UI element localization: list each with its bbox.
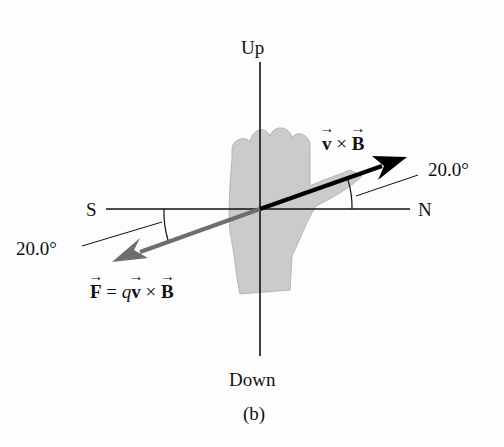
figure-caption: (b) xyxy=(243,404,265,423)
equals-symbol: = xyxy=(102,281,122,302)
force-label: F = qv × B xyxy=(90,282,174,301)
angle-label-left: 20.0° xyxy=(16,239,57,258)
angle-leader-right xyxy=(356,175,418,196)
q-symbol: q xyxy=(122,281,132,302)
angle-leader-left xyxy=(82,222,162,246)
v-symbol: v xyxy=(322,134,332,153)
v-symbol: v xyxy=(131,282,141,301)
b-symbol: B xyxy=(352,134,365,153)
vxb-label: v × B xyxy=(322,134,364,153)
angle-arc-left xyxy=(164,209,168,240)
times-symbol: × xyxy=(332,133,352,154)
label-south: S xyxy=(86,200,97,219)
label-down: Down xyxy=(229,370,275,389)
angle-label-right: 20.0° xyxy=(428,160,469,179)
times-symbol: × xyxy=(141,281,161,302)
label-up: Up xyxy=(241,38,264,57)
f-symbol: F xyxy=(90,282,102,301)
label-north: N xyxy=(418,200,432,219)
b-symbol: B xyxy=(161,282,174,301)
